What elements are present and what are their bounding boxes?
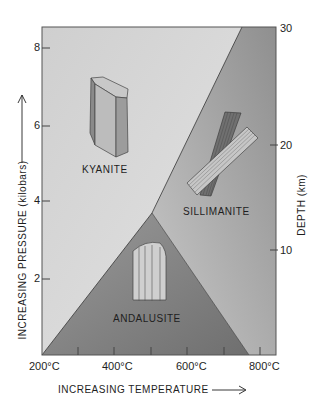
x-tick-600: 600°C [176, 360, 207, 372]
sillimanite-label: SILLIMANITE [183, 206, 250, 217]
andalusite-label: ANDALUSITE [113, 313, 181, 324]
kyanite-crystal-icon [90, 77, 128, 157]
y2-tick-10: 10 [280, 244, 292, 256]
y-tick-2: 2 [34, 272, 40, 284]
y-tick-6: 6 [34, 119, 40, 131]
andalusite-crystal-icon [133, 242, 166, 301]
phase-diagram [0, 0, 321, 405]
y-tick-8: 8 [34, 41, 40, 53]
y2-tick-30: 30 [280, 22, 292, 34]
y-axis-title: INCREASING PRESSURE (kilobars) [17, 161, 28, 340]
x-tick-800: 800°C [249, 360, 280, 372]
x-tick-200: 200°C [29, 360, 60, 372]
kyanite-label: KYANITE [82, 164, 128, 175]
x-tick-400: 400°C [102, 360, 133, 372]
x-axis-title: INCREASING TEMPERATURE [58, 384, 209, 395]
y2-tick-20: 20 [280, 139, 292, 151]
y-tick-4: 4 [34, 194, 40, 206]
y2-axis-title: DEPTH (km) [296, 174, 307, 236]
